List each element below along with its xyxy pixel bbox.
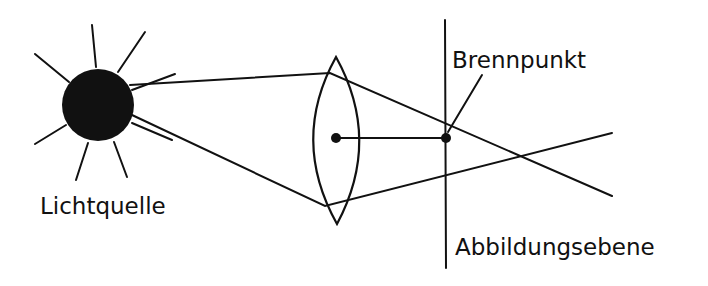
image-plane-line [445,20,446,268]
ray-upper [130,73,612,196]
focal-point-label: Brennpunkt [452,49,586,72]
light-source-label: Lichtquelle [40,195,166,218]
focal-point-dot [441,133,451,143]
lens-center-dot [331,133,341,143]
image-plane-label: Abbildungsebene [455,236,655,259]
ray-lower [132,115,612,206]
light-source-sun [62,69,134,141]
focal-point-leader [448,75,482,132]
